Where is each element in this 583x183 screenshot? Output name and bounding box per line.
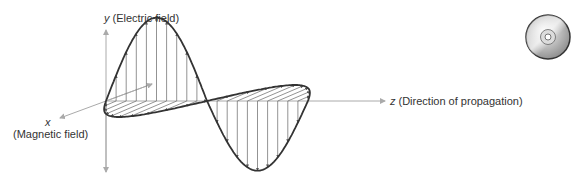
x-axis-back: [106, 84, 152, 101]
x-axis-var: x: [44, 116, 51, 128]
y-var: y: [103, 12, 111, 24]
z-axis-label: z(Direction of propagation): [389, 95, 523, 107]
magnetic-field-vector: [104, 101, 126, 110]
x-axis-label: (Magnetic field): [13, 128, 88, 140]
z-desc: (Direction of propagation): [399, 95, 523, 107]
y-axis-label: y(Electric field): [103, 12, 179, 24]
magnetic-field-vector: [288, 92, 310, 101]
y-desc: (Electric field): [113, 12, 180, 24]
em-wave-diagram: y(Electric field) x (Magnetic field) z(D…: [0, 0, 583, 183]
cd-disc-icon: [526, 15, 570, 59]
wave-curves: [104, 18, 310, 171]
field-vectors: [104, 18, 310, 171]
z-var: z: [389, 95, 396, 107]
